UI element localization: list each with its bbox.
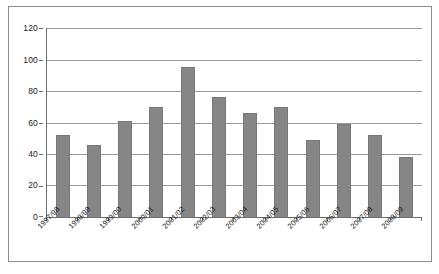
x-axis-tick-label-group: 1997/98 1998/99 1999/00 2000/01 2001/02 … <box>46 221 422 261</box>
y-axis-tick-mark-40 <box>39 154 43 155</box>
bar-slot <box>360 28 391 217</box>
bars-layer <box>47 28 422 217</box>
bar-slot <box>391 28 422 217</box>
bar-slot <box>78 28 109 217</box>
bar-2005-06 <box>306 140 320 217</box>
plot-area <box>46 28 422 217</box>
y-axis-tick-label-120: 120 <box>23 23 38 33</box>
y-axis-tick-label-group: 120 100 80 60 40 20 0 <box>9 28 43 217</box>
bar-2002-03 <box>212 97 226 217</box>
bar-slot <box>328 28 359 217</box>
y-axis-tick-label-80: 80 <box>28 86 38 96</box>
bar-1998-99 <box>87 145 101 217</box>
y-axis-tick-mark-60 <box>39 123 43 124</box>
bar-2007-08 <box>368 135 382 217</box>
bar-slot <box>172 28 203 217</box>
bar-2000-01 <box>149 107 163 217</box>
y-axis-tick-mark-80 <box>39 91 43 92</box>
bar-slot <box>235 28 266 217</box>
y-axis-tick-label-20: 20 <box>28 180 38 190</box>
bar-slot <box>141 28 172 217</box>
y-axis-tick-mark-100 <box>39 60 43 61</box>
bar-slot <box>47 28 78 217</box>
bar-1999-00 <box>118 121 132 217</box>
x-axis-label-cell: 2008/09 <box>391 221 422 261</box>
bar-1997-98 <box>56 135 70 217</box>
bar-2001-02 <box>181 67 195 217</box>
y-axis-tick-mark-120 <box>39 28 43 29</box>
y-axis-tick-label-60: 60 <box>28 118 38 128</box>
bar-slot <box>297 28 328 217</box>
y-axis-tick-mark-20 <box>39 186 43 187</box>
y-axis-tick-label-0: 0 <box>33 212 38 222</box>
bar-slot <box>266 28 297 217</box>
bar-2003-04 <box>243 113 257 217</box>
y-axis-tick-label-100: 100 <box>23 55 38 65</box>
bar-slot <box>203 28 234 217</box>
y-axis-tick-label-40: 40 <box>28 149 38 159</box>
bar-slot <box>110 28 141 217</box>
bar-chart-figure: 120 100 80 60 40 20 0 <box>8 6 432 262</box>
bar-2004-05 <box>274 107 288 217</box>
bar-2006-07 <box>337 124 351 217</box>
